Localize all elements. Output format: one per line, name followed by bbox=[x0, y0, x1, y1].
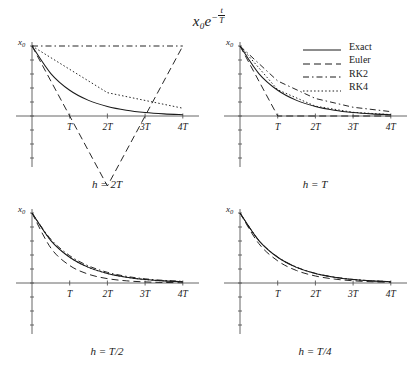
x-tick-label-T: T bbox=[67, 289, 73, 299]
y-axis-label-subscript: 0 bbox=[22, 208, 25, 215]
plot-area: T2T3T4T bbox=[222, 38, 408, 168]
y-axis-label-subscript: 0 bbox=[230, 208, 233, 215]
x-tick-label-2T: 2T bbox=[102, 289, 113, 299]
plot-area: T2T3T4T bbox=[14, 38, 200, 168]
curve-euler bbox=[240, 213, 391, 282]
title-exponent-denominator: T bbox=[218, 16, 225, 25]
panel-h-T-2: T2T3T4Tx0h = T/2 bbox=[14, 205, 200, 335]
panel-h-T: T2T3T4Tx0h = T bbox=[222, 38, 408, 168]
x-tick-label-4T: 4T bbox=[386, 289, 397, 299]
figure-title: x0e−tT bbox=[0, 6, 418, 31]
x-tick-label-3T: 3T bbox=[347, 289, 359, 299]
curve-rk4 bbox=[240, 46, 391, 115]
y-axis-label: x0 bbox=[226, 204, 233, 215]
x-tick-label-3T: 3T bbox=[139, 289, 151, 299]
curve-rk4 bbox=[240, 213, 391, 282]
title-minus: − bbox=[211, 12, 218, 23]
y-axis-label: x0 bbox=[226, 37, 233, 48]
x-tick-label-3T: 3T bbox=[139, 122, 151, 132]
x-tick-label-2T: 2T bbox=[102, 122, 113, 132]
x-tick-label-2T: 2T bbox=[310, 122, 321, 132]
panel-caption: h = T/2 bbox=[14, 345, 200, 357]
curve-rk4 bbox=[32, 213, 183, 282]
curve-exact bbox=[32, 46, 183, 115]
y-axis-label: x0 bbox=[18, 204, 25, 215]
curve-exact bbox=[240, 46, 391, 115]
x-tick-label-T: T bbox=[67, 122, 73, 132]
x-tick-label-T: T bbox=[275, 289, 281, 299]
x-tick-label-T: T bbox=[275, 122, 281, 132]
x-tick-label-4T: 4T bbox=[178, 122, 189, 132]
title-x: x bbox=[193, 13, 200, 29]
x-tick-label-4T: 4T bbox=[178, 289, 189, 299]
panel-caption: h = T/4 bbox=[222, 345, 408, 357]
y-axis-label-subscript: 0 bbox=[230, 41, 233, 48]
title-exponent-fraction: tT bbox=[218, 6, 225, 24]
y-axis-label-subscript: 0 bbox=[22, 41, 25, 48]
x-tick-label-4T: 4T bbox=[386, 122, 397, 132]
curve-rk2 bbox=[240, 46, 391, 112]
panel-caption: h = T bbox=[222, 178, 408, 190]
plot-area: T2T3T4T bbox=[14, 205, 200, 335]
curve-exact bbox=[32, 213, 183, 282]
panel-caption: h = 2T bbox=[14, 178, 200, 190]
curve-euler bbox=[240, 46, 391, 116]
curve-exact bbox=[240, 213, 391, 282]
x-tick-label-3T: 3T bbox=[347, 122, 359, 132]
x-tick-label-2T: 2T bbox=[310, 289, 321, 299]
y-axis-label: x0 bbox=[18, 37, 25, 48]
panel-h-T-4: T2T3T4Tx0h = T/4 bbox=[222, 205, 408, 335]
curve-rk2 bbox=[240, 213, 391, 282]
figure-root: x0e−tT ExactEulerRK2RK4 T2T3T4Tx0h = 2T … bbox=[0, 0, 418, 377]
plot-area: T2T3T4T bbox=[222, 205, 408, 335]
curve-rk2 bbox=[32, 213, 183, 281]
panel-h-2T: T2T3T4Tx0h = 2T bbox=[14, 38, 200, 168]
